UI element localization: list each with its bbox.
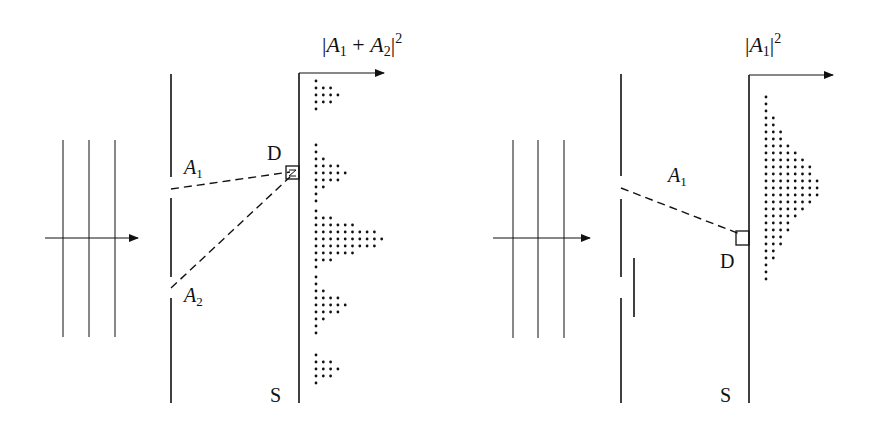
pattern-dot [779,222,782,225]
pattern-dot [765,131,768,134]
pattern-dot [329,245,332,248]
pattern-dot [322,224,325,227]
pattern-dot [772,173,775,176]
pattern-dot [801,194,804,197]
pattern-dot [801,187,804,190]
pattern-dot [322,87,325,90]
pattern-dot [329,172,332,175]
pattern-dot [765,159,768,162]
pattern-dot [329,311,332,314]
pattern-dot [787,166,790,169]
intensity-label-sum: |A1 + A2|2 [322,31,402,59]
pattern-dot [315,245,318,248]
pattern-dot [315,290,318,293]
pattern-dot [779,215,782,218]
pattern-dot [808,194,811,197]
pattern-dot [337,304,340,307]
pattern-dot [322,318,325,321]
pattern-dot [772,138,775,141]
path-label-a2: A2 [182,284,203,309]
pattern-dot [315,283,318,286]
pattern-dot [801,180,804,183]
pattern-dot [315,94,318,97]
pattern-dot [344,245,347,248]
screen-label: S [720,384,731,406]
pattern-dot [772,152,775,155]
pattern-dot [765,138,768,141]
pattern-dot [779,159,782,162]
pattern-dot [315,217,318,220]
pattern-dot [337,172,340,175]
pattern-dot [337,224,340,227]
pattern-dot [765,103,768,106]
pattern-dot [765,166,768,169]
pattern-dot [794,194,797,197]
pattern-dot [765,271,768,274]
pattern-dot [794,173,797,176]
pattern-dot [779,243,782,246]
panel-both-slits: |A1 + A2|2 A1 A2 D S [45,31,402,406]
pattern-dot [772,159,775,162]
pattern-dot [765,110,768,113]
path-a1-line [621,188,740,234]
pattern-dot [329,217,332,220]
pattern-dot [787,152,790,155]
pattern-dot [315,165,318,168]
pattern-dot [794,215,797,218]
pattern-dot [373,245,376,248]
pattern-dot [351,252,354,255]
pattern-dot [794,180,797,183]
pattern-dot [772,187,775,190]
pattern-dot [794,159,797,162]
pattern-dot [772,131,775,134]
pattern-dot [779,229,782,232]
pattern-dot [779,166,782,169]
pattern-dot [329,375,332,378]
pattern-dot [315,304,318,307]
pattern-dot [337,252,340,255]
pattern-dot [322,361,325,364]
pattern-dot [322,158,325,161]
pattern-dot [322,172,325,175]
pattern-dot [322,238,325,241]
pattern-dot [787,222,790,225]
pattern-dot [322,368,325,371]
pattern-dot [358,231,361,234]
pattern-dot [322,179,325,182]
pattern-dot [329,165,332,168]
pattern-dot [772,194,775,197]
pattern-dot [315,297,318,300]
pattern-dot [801,173,804,176]
pattern-dot [816,194,819,197]
pattern-dot [779,201,782,204]
pattern-dot [765,187,768,190]
pattern-dot [801,159,804,162]
pattern-dot [816,187,819,190]
pattern-dot [765,96,768,99]
pattern-dot [315,332,318,335]
pattern-dot [329,179,332,182]
pattern-dot [808,173,811,176]
pattern-dot [322,101,325,104]
pattern-dot [344,252,347,255]
path-label-a1: A1 [182,156,203,181]
pattern-dot [373,231,376,234]
pattern-dot [765,250,768,253]
pattern-dot [315,179,318,182]
pattern-dot [787,201,790,204]
pattern-dot [787,173,790,176]
pattern-dot [772,117,775,120]
pattern-dot [329,94,332,97]
pattern-dot [779,208,782,211]
pattern-dot [322,165,325,168]
pattern-dot [322,94,325,97]
pattern-dot [772,145,775,148]
pattern-dot [315,276,318,279]
pattern-dot [322,231,325,234]
pattern-dot [779,194,782,197]
pattern-dot [366,245,369,248]
pattern-dot [772,201,775,204]
pattern-dot [315,325,318,328]
pattern-dot [337,179,340,182]
pattern-dot [765,236,768,239]
